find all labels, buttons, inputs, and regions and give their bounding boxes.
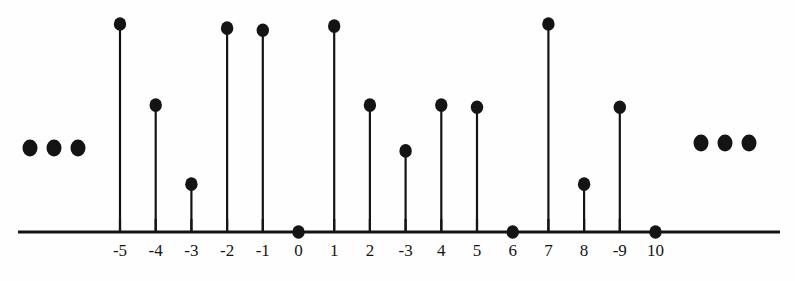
axis-tick-label: 2 xyxy=(366,242,375,259)
stem-marker xyxy=(649,225,661,239)
axis-tick-label: -9 xyxy=(613,242,627,259)
stem-marker xyxy=(292,225,304,239)
axis-tick-label: 7 xyxy=(544,242,553,259)
stem-marker xyxy=(578,177,590,191)
stem-marker xyxy=(114,17,126,31)
left-continuation-ellipsis xyxy=(20,136,90,164)
stem-marker xyxy=(614,100,626,114)
axis-tick-label: -5 xyxy=(113,242,127,259)
stem-marker xyxy=(328,19,340,33)
stem-marker xyxy=(221,21,233,35)
stem-marker xyxy=(185,177,197,191)
axis-tick-label: 4 xyxy=(437,242,446,259)
stem-marker xyxy=(399,144,411,158)
axis-tick-label: -3 xyxy=(184,242,198,259)
stem-marker xyxy=(150,98,162,112)
axis-tick-label: 8 xyxy=(580,242,589,259)
axis-tick-label: -2 xyxy=(220,242,234,259)
stem-marker xyxy=(507,225,519,239)
stem-markers xyxy=(114,17,662,239)
stem-plot-canvas xyxy=(0,0,795,281)
stem-marker xyxy=(542,17,554,31)
axis-tick-label: 1 xyxy=(330,242,339,259)
axis-tick-label: 6 xyxy=(508,242,517,259)
stem-marker xyxy=(364,98,376,112)
axis-tick-label: 5 xyxy=(473,242,482,259)
axis-tick-label: -1 xyxy=(256,242,270,259)
stem-lines xyxy=(120,27,620,232)
axis-tick-label: 10 xyxy=(647,242,664,259)
axis-tick-label: -3 xyxy=(399,242,413,259)
axis-tick-label: 0 xyxy=(294,242,303,259)
stem-marker xyxy=(471,100,483,114)
right-continuation-ellipsis xyxy=(691,131,761,159)
stem-marker xyxy=(257,23,269,37)
stem-marker xyxy=(435,98,447,112)
stem-plot-figure: -5-4-3-2-1012-345678-910 xyxy=(0,0,795,281)
axis-tick-label: -4 xyxy=(149,242,163,259)
